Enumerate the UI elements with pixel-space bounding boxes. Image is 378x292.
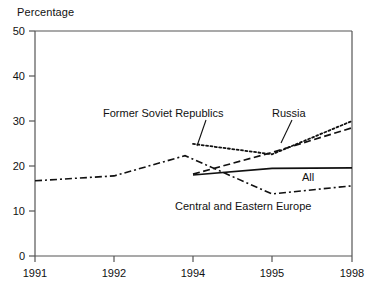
leader-line-russia bbox=[281, 120, 292, 143]
y-tick-label-40: 40 bbox=[13, 70, 25, 82]
x-axis-ticks: 1991 1992 1994 1995 1998 bbox=[23, 256, 364, 279]
series-line-all bbox=[193, 168, 352, 175]
series-label-central-and-eastern-europe: Central and Eastern Europe bbox=[175, 200, 311, 212]
y-tick-label-50: 50 bbox=[13, 25, 25, 37]
y-axis-ticks: 50 40 30 20 10 0 bbox=[13, 25, 35, 262]
x-tick-label-1992: 1992 bbox=[102, 267, 126, 279]
line-chart-svg: 50 40 30 20 10 0 1991 1992 1994 1995 199… bbox=[0, 0, 378, 292]
series-label-all: All bbox=[302, 171, 314, 183]
series-line-former-soviet-republics bbox=[193, 121, 352, 154]
x-tick-label-1998: 1998 bbox=[340, 267, 364, 279]
x-tick-label-1994: 1994 bbox=[181, 267, 205, 279]
annotation-leaders bbox=[197, 120, 292, 146]
x-tick-label-1991: 1991 bbox=[23, 267, 47, 279]
y-tick-label-0: 0 bbox=[19, 250, 25, 262]
x-tick-label-1995: 1995 bbox=[260, 267, 284, 279]
y-tick-label-30: 30 bbox=[13, 115, 25, 127]
y-tick-label-20: 20 bbox=[13, 160, 25, 172]
leader-line-former-soviet-republics bbox=[197, 120, 206, 146]
y-tick-label-10: 10 bbox=[13, 205, 25, 217]
series-label-former-soviet-republics: Former Soviet Republics bbox=[103, 107, 224, 119]
annotation-labels: Former Soviet Republics Russia All Centr… bbox=[103, 107, 314, 212]
chart-container: Percentage 50 40 30 20 10 0 bbox=[0, 0, 378, 292]
series-label-russia: Russia bbox=[272, 107, 307, 119]
